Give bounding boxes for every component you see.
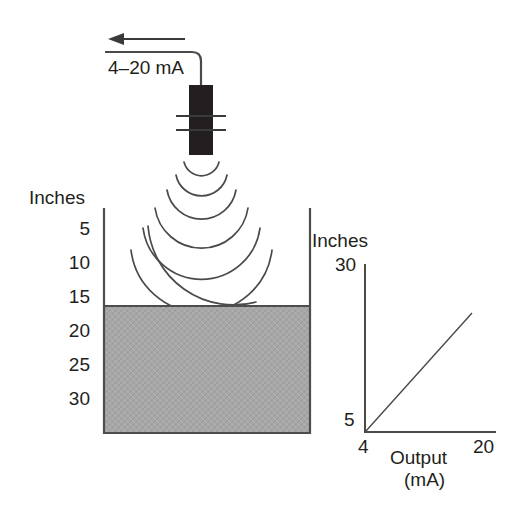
sound-wave-arc-5 <box>143 228 260 279</box>
level-scale-tick-15: 15 <box>50 287 90 306</box>
graph-response-line <box>366 313 472 431</box>
level-scale-tick-20: 20 <box>50 321 90 340</box>
graph-x-tick-min: 4 <box>358 437 369 456</box>
graph-x-tick-max: 20 <box>473 437 494 456</box>
graph-y-tick-min: 5 <box>344 410 355 429</box>
graph-x-axis-units: (mA) <box>404 470 445 489</box>
level-scale-title: Inches <box>29 188 85 207</box>
tank-liquid <box>103 306 311 434</box>
level-scale-tick-10: 10 <box>50 253 90 272</box>
level-scale-tick-30: 30 <box>50 389 90 408</box>
level-scale-tick-25: 25 <box>50 355 90 374</box>
sound-wave-arc-3 <box>167 190 236 219</box>
current-direction-arrow-head <box>108 33 124 45</box>
level-scale-tick-5: 5 <box>50 219 90 238</box>
graph-y-tick-max: 30 <box>335 255 356 274</box>
output-graph <box>364 264 496 433</box>
sound-wave-arc-1 <box>184 162 219 176</box>
signal-range-label: 4–20 mA <box>108 58 184 77</box>
graph-y-axis-title: Inches <box>312 231 368 250</box>
transducer-body <box>189 85 213 155</box>
sound-wave-arcs <box>131 162 272 313</box>
sound-wave-arc-2 <box>176 175 227 196</box>
graph-x-axis-title: Output <box>390 448 447 467</box>
ultrasonic-transducer <box>176 85 226 155</box>
tank <box>103 208 311 434</box>
sound-wave-arc-4 <box>155 208 248 248</box>
